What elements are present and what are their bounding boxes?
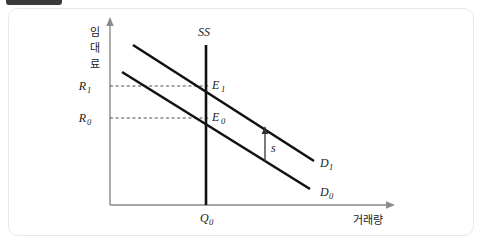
economics-diagram: 임대료 임 대 료 거래량 SS bbox=[0, 0, 488, 247]
screenshot-root: 임대료 임 대 료 거래량 SS bbox=[0, 0, 488, 247]
y-axis-label-line-2: 대 bbox=[90, 42, 100, 55]
demand-label-d0-base: D bbox=[319, 185, 329, 199]
y-tick-label-r0-sub: 0 bbox=[87, 117, 92, 127]
equilibrium-label-e0-base: E bbox=[211, 110, 220, 124]
x-axis-label: 거래량 bbox=[353, 214, 383, 227]
demand-label-d1: D 1 bbox=[319, 156, 333, 172]
demand-label-d0: D 0 bbox=[319, 185, 334, 201]
equilibrium-label-e1: E 1 bbox=[211, 78, 225, 94]
y-tick-label-r0-base: R bbox=[78, 111, 87, 125]
demand-label-d0-sub: 0 bbox=[329, 191, 334, 201]
shift-label: s bbox=[271, 141, 276, 155]
y-tick-label-r1-base: R bbox=[78, 79, 87, 93]
x-tick-label-q0: Q 0 bbox=[200, 211, 214, 227]
x-axis bbox=[110, 201, 395, 208]
x-tick-label-q0-sub: 0 bbox=[209, 217, 214, 227]
demand-label-d1-base: D bbox=[319, 156, 329, 170]
x-axis-arrow-icon bbox=[386, 201, 395, 208]
y-axis-label-line-1: 임 bbox=[90, 26, 100, 39]
y-tick-label-r0: R 0 bbox=[78, 111, 92, 127]
equilibrium-label-e1-sub: 1 bbox=[221, 84, 225, 94]
equilibrium-label-e0: E 0 bbox=[211, 110, 226, 126]
equilibrium-label-e1-base: E bbox=[211, 78, 220, 92]
demand-curve-d1 bbox=[133, 45, 314, 161]
y-axis-label-line-3: 료 bbox=[90, 58, 100, 71]
x-tick-label-q0-base: Q bbox=[200, 211, 209, 225]
equilibrium-label-e0-sub: 0 bbox=[221, 116, 226, 126]
supply-curve-label: SS bbox=[198, 25, 210, 39]
demand-label-d1-sub: 1 bbox=[329, 162, 333, 172]
y-tick-label-r1-sub: 1 bbox=[87, 85, 91, 95]
y-axis-arrow-icon bbox=[106, 17, 113, 26]
y-axis-label: 임 대 료 bbox=[90, 26, 100, 71]
y-tick-label-r1: R 1 bbox=[78, 79, 92, 95]
y-axis bbox=[106, 17, 113, 205]
